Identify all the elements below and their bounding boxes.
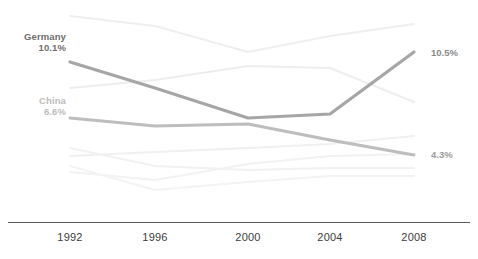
series-label-germany: Germany 10.1% bbox=[4, 31, 66, 53]
line-chart: Germany 10.1% China 6.6% 10.5% 4.3% 1992… bbox=[0, 0, 478, 259]
context-series-group bbox=[70, 16, 414, 190]
germany-label-value: 10.1% bbox=[4, 42, 66, 53]
chart-plot-area bbox=[0, 0, 478, 259]
series-line-context-series-4 bbox=[70, 148, 414, 170]
germany-label-name: Germany bbox=[4, 31, 66, 42]
series-line-context-series-1 bbox=[70, 16, 414, 52]
x-tick-1992: 1992 bbox=[57, 231, 82, 243]
x-tick-2000: 2000 bbox=[235, 231, 260, 243]
x-tick-1996: 1996 bbox=[142, 231, 167, 243]
germany-end-value-label: 10.5% bbox=[431, 47, 458, 58]
x-tick-2008: 2008 bbox=[401, 231, 426, 243]
series-line-context-series-2 bbox=[70, 66, 414, 102]
china-label-value: 6.6% bbox=[4, 106, 66, 117]
series-line-germany bbox=[70, 52, 414, 118]
china-end-value-label: 4.3% bbox=[431, 149, 453, 160]
series-line-china bbox=[70, 118, 414, 155]
china-label-name: China bbox=[4, 95, 66, 106]
x-tick-2004: 2004 bbox=[317, 231, 342, 243]
series-label-china: China 6.6% bbox=[4, 95, 66, 117]
